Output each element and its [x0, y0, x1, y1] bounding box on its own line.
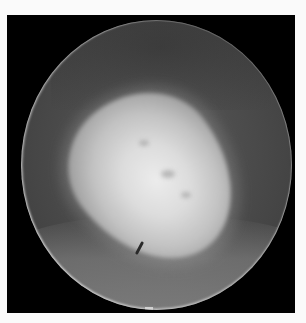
mass-spot: [181, 192, 191, 198]
mass-spot: [139, 140, 149, 146]
rim-nub: [145, 307, 153, 310]
image-frame: [7, 15, 295, 313]
endoscopic-field: [21, 20, 292, 310]
mass-spot: [161, 170, 175, 178]
